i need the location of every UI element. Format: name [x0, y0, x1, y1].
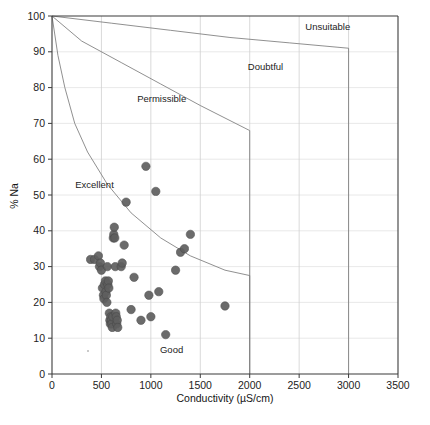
y-tick-label: 50 — [33, 189, 45, 201]
data-point — [221, 302, 229, 310]
zone-label-doubtful: Doubtful — [248, 61, 283, 72]
data-point — [110, 223, 118, 231]
scan-speck — [87, 350, 89, 352]
y-tick-label: 10 — [33, 332, 45, 344]
data-point — [180, 245, 188, 253]
y-tick-label: 20 — [33, 296, 45, 308]
x-tick-label: 1000 — [139, 379, 163, 391]
y-tick-label: 60 — [33, 153, 45, 165]
data-point — [161, 330, 169, 338]
wilcox-diagram-figure: 0102030405060708090100 05001000150020002… — [0, 0, 430, 425]
scatter-plot-svg: 0102030405060708090100 05001000150020002… — [0, 0, 430, 425]
data-point — [103, 262, 111, 270]
data-point — [114, 323, 122, 331]
data-point — [147, 313, 155, 321]
data-point — [186, 230, 194, 238]
data-point — [103, 298, 111, 306]
y-axis-tick-labels: 0102030405060708090100 — [27, 10, 45, 380]
y-tick-label: 100 — [27, 10, 45, 22]
x-tick-label: 1500 — [189, 379, 213, 391]
zone-label-permissible: Permissible — [137, 93, 186, 104]
data-point — [127, 305, 135, 313]
data-point — [155, 287, 163, 295]
x-tick-label: 500 — [93, 379, 111, 391]
data-point — [137, 316, 145, 324]
data-point — [142, 162, 150, 170]
x-axis-tick-labels: 0500100015002000250030003500 — [49, 379, 410, 391]
data-point — [130, 273, 138, 281]
zone-label-unsuitable: Unsuitable — [305, 21, 350, 32]
data-point — [105, 284, 113, 292]
data-point — [152, 187, 160, 195]
x-tick-label: 2500 — [287, 379, 311, 391]
zone-label-good: Good — [160, 344, 183, 355]
data-point — [145, 291, 153, 299]
zone-label-excellent: Excellent — [75, 179, 114, 190]
x-axis-ticks — [52, 374, 398, 378]
x-axis-title: Conductivity (µS/cm) — [176, 392, 273, 404]
y-axis-title: % Na — [8, 183, 20, 209]
x-tick-label: 3500 — [386, 379, 410, 391]
y-axis-ticks — [48, 16, 52, 374]
data-point — [122, 198, 130, 206]
y-tick-label: 0 — [39, 368, 45, 380]
y-tick-label: 70 — [33, 117, 45, 129]
y-tick-label: 40 — [33, 224, 45, 236]
y-tick-label: 90 — [33, 45, 45, 57]
data-point — [171, 266, 179, 274]
y-tick-label: 80 — [33, 81, 45, 93]
data-point — [111, 234, 119, 242]
x-tick-label: 3000 — [337, 379, 361, 391]
data-point — [120, 241, 128, 249]
y-tick-label: 30 — [33, 260, 45, 272]
x-tick-label: 2000 — [238, 379, 262, 391]
x-tick-label: 0 — [49, 379, 55, 391]
data-point — [118, 259, 126, 267]
